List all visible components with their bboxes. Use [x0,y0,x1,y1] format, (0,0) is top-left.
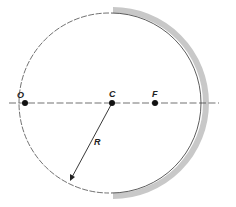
point-c [109,100,115,106]
radius-line [71,103,112,179]
point-o [22,100,28,106]
label-c: C [109,89,116,99]
label-o: O [17,90,24,100]
mirror-diagram: O C F R [0,0,236,207]
label-r: R [94,137,101,147]
label-f: F [152,89,158,99]
radius-arrowhead [70,174,75,181]
point-f [152,100,158,106]
